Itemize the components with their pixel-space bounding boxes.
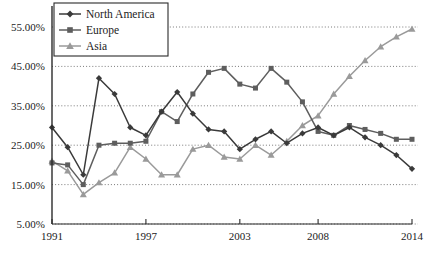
legend-item-label: Asia bbox=[86, 40, 107, 52]
data-point-marker-diamond bbox=[127, 124, 133, 130]
legend-item-label: North America bbox=[86, 8, 155, 20]
legend: North AmericaEuropeAsia bbox=[54, 3, 168, 56]
data-point-marker-square bbox=[112, 141, 117, 146]
chart-container: 55.00%45.00%35.00%25.00%15.00%5.00% 1991… bbox=[0, 0, 432, 261]
y-axis-tick-label: 35.00% bbox=[11, 100, 45, 112]
legend-item-label: Europe bbox=[86, 24, 119, 37]
data-point-marker-square bbox=[96, 143, 101, 148]
series-line bbox=[52, 78, 412, 175]
data-point-marker-triangle bbox=[111, 169, 118, 175]
data-point-marker-square bbox=[206, 70, 211, 75]
x-axis-tick-label: 1991 bbox=[41, 230, 63, 242]
data-point-marker-square bbox=[394, 137, 399, 142]
data-point-marker-square bbox=[190, 91, 195, 96]
data-point-marker-triangle bbox=[409, 25, 416, 31]
y-axis-tick-labels: 55.00%45.00%35.00%25.00%15.00%5.00% bbox=[11, 21, 45, 230]
series-north-america bbox=[49, 75, 415, 178]
data-point-marker-square bbox=[175, 119, 180, 124]
line-chart: 55.00%45.00%35.00%25.00%15.00%5.00% 1991… bbox=[0, 0, 432, 261]
data-point-marker-square bbox=[284, 80, 289, 85]
data-point-marker-square bbox=[269, 66, 274, 71]
data-point-marker-triangle bbox=[299, 122, 306, 128]
data-point-marker-triangle bbox=[377, 43, 384, 49]
x-axis bbox=[52, 219, 412, 224]
y-axis-tick-label: 15.00% bbox=[11, 179, 45, 191]
data-point-marker-square bbox=[237, 82, 242, 87]
data-point-marker-square bbox=[363, 127, 368, 132]
data-point-marker-square bbox=[222, 66, 227, 71]
data-point-marker-square bbox=[300, 99, 305, 104]
y-axis-tick-label: 25.00% bbox=[11, 139, 45, 151]
y-axis-tick-label: 55.00% bbox=[11, 21, 45, 33]
y-axis-tick-label: 45.00% bbox=[11, 60, 45, 72]
x-axis-tick-label: 2008 bbox=[307, 230, 330, 242]
x-axis-tick-label: 2003 bbox=[229, 230, 252, 242]
y-axis-tick-label: 5.00% bbox=[17, 218, 45, 230]
data-point-marker-square bbox=[378, 131, 383, 136]
x-axis-tick-label: 1997 bbox=[135, 230, 158, 242]
data-point-marker-square bbox=[81, 182, 86, 187]
data-point-marker-square bbox=[253, 86, 258, 91]
x-axis-tick-label: 2014 bbox=[401, 230, 424, 242]
data-point-marker-diamond bbox=[80, 172, 86, 178]
data-point-marker-triangle bbox=[95, 179, 102, 185]
data-point-marker-triangle bbox=[393, 33, 400, 39]
data-point-marker-square bbox=[67, 27, 73, 33]
x-axis-tick-labels: 19911997200320082014 bbox=[41, 230, 424, 242]
data-point-marker-square bbox=[65, 162, 70, 167]
data-point-marker-square bbox=[410, 137, 415, 142]
data-point-marker-triangle bbox=[252, 142, 259, 148]
data-point-marker-square bbox=[143, 139, 148, 144]
data-point-marker-square bbox=[128, 141, 133, 146]
